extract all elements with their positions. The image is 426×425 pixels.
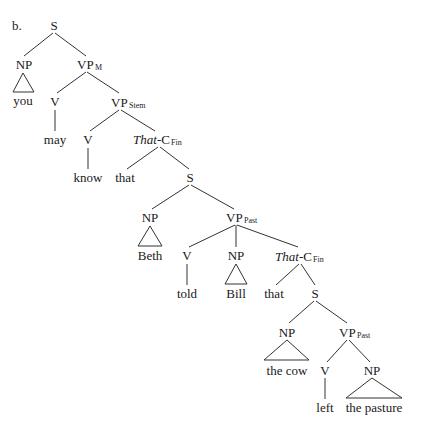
edge-vppast1-v — [189, 225, 235, 247]
triangle-np-cow — [264, 340, 309, 360]
edge-vpm-v — [57, 72, 86, 93]
node-np-subject: NP — [16, 57, 33, 72]
node-np-bill: NP — [228, 248, 245, 263]
node-vp-past-2: VP Past — [339, 325, 371, 340]
syntax-tree: b. S NP you VP M V may VP Stem V know Th… — [0, 0, 426, 425]
leaf-the-cow: the cow — [267, 363, 308, 378]
leaf-that-1: that — [115, 170, 135, 185]
edge-vppast2-np — [349, 340, 370, 362]
node-s-2: S — [186, 170, 193, 185]
edge-s2-vppast — [191, 185, 234, 209]
leaf-may: may — [44, 132, 67, 147]
leaf-that-2: that — [264, 286, 284, 301]
vp-stem-label: VP — [111, 95, 128, 110]
leaf-you: you — [13, 93, 33, 108]
leaf-the-pasture: the pasture — [346, 400, 403, 415]
edge-s-vpm — [55, 33, 86, 56]
node-vp-past-1: VP Past — [226, 210, 258, 225]
vp-stem-sub: Stem — [129, 101, 146, 110]
node-v-know: V — [83, 132, 93, 147]
vp-past1-sub: Past — [244, 216, 258, 225]
that-c2-label: -C — [299, 249, 312, 264]
that-c1-label: -C — [157, 132, 170, 147]
triangle-np-beth — [138, 226, 162, 246]
edge-vpm-vpstem — [87, 72, 119, 93]
edge-s2-np — [152, 185, 189, 209]
leaf-beth: Beth — [138, 248, 163, 263]
leaf-know: know — [74, 170, 104, 185]
edge-vppast1-thatc — [237, 225, 298, 247]
leaf-bill: Bill — [226, 286, 246, 301]
node-s-root: S — [50, 18, 57, 33]
vp-past1-label: VP — [226, 210, 243, 225]
edge-thatc2-s — [301, 264, 315, 285]
that-c1-sub: Fin — [171, 138, 182, 147]
vp-past2-label: VP — [339, 325, 356, 340]
node-np-pasture: NP — [364, 363, 381, 378]
edge-s3-vppast — [316, 301, 347, 323]
leaf-told: told — [177, 286, 198, 301]
example-label: b. — [12, 18, 22, 33]
edge-thatc1-s — [160, 147, 189, 169]
node-vp-m: VP M — [77, 57, 102, 72]
triangle-np-subject — [13, 73, 34, 92]
vp-past2-sub: Past — [357, 331, 371, 340]
edge-thatc1-that — [127, 147, 158, 169]
edge-vpstem-thatc — [121, 110, 155, 131]
node-vp-stem: VP Stem — [111, 95, 146, 110]
edge-vppast2-v — [327, 340, 347, 362]
edge-s-np — [24, 33, 53, 56]
vp-m-sub: M — [95, 63, 102, 72]
that-c2-sub: Fin — [313, 255, 324, 264]
vp-m-label: VP — [77, 57, 94, 72]
node-that-c-fin-1: That -C Fin — [133, 132, 182, 147]
node-v-told: V — [182, 248, 192, 263]
triangle-np-bill — [225, 264, 247, 284]
leaf-left: left — [316, 400, 334, 415]
node-v-may: V — [50, 94, 60, 109]
node-v-left: V — [320, 363, 330, 378]
node-np-cow: NP — [279, 325, 296, 340]
node-s-3: S — [311, 286, 318, 301]
node-np-beth: NP — [142, 210, 159, 225]
edge-thatc2-that — [276, 264, 299, 285]
that-c2-italic: That — [275, 249, 299, 264]
that-c1-italic: That — [133, 132, 157, 147]
triangle-np-pasture — [346, 378, 402, 398]
edge-vpstem-v — [90, 110, 119, 131]
edge-s3-np — [289, 301, 314, 323]
node-that-c-fin-2: That -C Fin — [275, 249, 324, 264]
